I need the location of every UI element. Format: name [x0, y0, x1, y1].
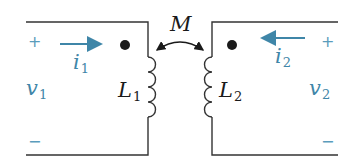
inductor-label-l2: L2	[219, 80, 242, 103]
dot-marker-right	[227, 40, 237, 50]
v2-minus-sign: −	[321, 134, 334, 150]
voltage-label-v1: v1	[26, 78, 47, 101]
mutual-inductance-label: M	[170, 14, 192, 35]
inductor-label-l1: L1	[118, 80, 141, 103]
v1-minus-sign: −	[28, 134, 41, 150]
coupled-inductor-diagram: + − v1 i1 L1 M + − v2 i2 L2	[0, 0, 349, 165]
v2-plus-sign: +	[321, 34, 334, 50]
current-label-i1: i1	[73, 52, 89, 75]
v1-plus-sign: +	[28, 34, 41, 50]
voltage-label-v2: v2	[309, 78, 330, 101]
dot-marker-left	[120, 40, 130, 50]
current-label-i2: i2	[275, 46, 291, 69]
mutual-arrow	[157, 42, 203, 50]
inductor-l2-coil	[205, 57, 213, 117]
inductor-l1-coil	[148, 57, 156, 117]
